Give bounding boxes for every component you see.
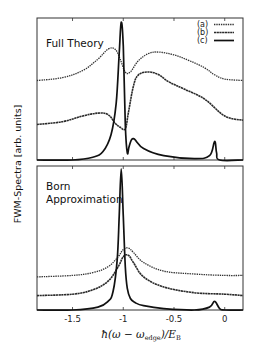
x-tick-label: -0.5 [166,314,183,324]
legend: (a) (b) (c) [197,20,234,45]
y-axis-label: FWM-Spectra [arb. units] [12,105,23,224]
x-tick-label: -1 [119,314,127,324]
panel-born-approximation: Born Approximation [37,166,243,310]
x-tick-label: -1.5 [64,314,81,324]
x-tick-labels: -1.5-1-0.50 [64,314,227,324]
panel-full-theory: Full Theory (a) (b) (c) [37,18,243,161]
curve-a-born [37,248,243,277]
x-tick-label: 0 [222,314,227,324]
curve-b-full-theory [37,72,243,130]
panel-title-full-theory: Full Theory [46,37,104,49]
curve-a-full-theory [37,48,243,81]
panel-title-born-line1: Born [46,180,70,192]
fwm-spectra-chart: Full Theory (a) (b) (c) Born Approximati… [0,0,258,352]
x-ticks-bottom [73,166,225,310]
legend-label-c: (c) [197,36,208,45]
panel-title-born-line2: Approximation [46,193,123,205]
x-axis-label: ħ(ω − ωedge)/EB [101,328,181,342]
